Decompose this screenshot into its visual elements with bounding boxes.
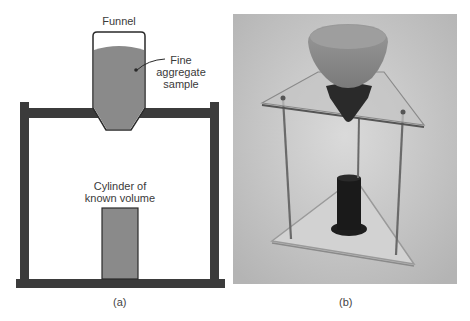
- panel-b-photo: (b): [232, 0, 470, 321]
- cylinder: [102, 208, 138, 279]
- apparatus-schematic: [0, 0, 232, 321]
- rod-middle: [358, 118, 359, 178]
- sample-label-line2: aggregate: [155, 66, 207, 78]
- apparatus-photo: [232, 0, 470, 321]
- rod-left-cap: [281, 96, 286, 101]
- panel-a-diagram: Funnel Fine aggregate sample Cylinder of…: [0, 0, 232, 321]
- caption-b: (b): [339, 296, 352, 308]
- caption-a: (a): [113, 296, 126, 308]
- fine-aggregate-sample: [94, 46, 144, 129]
- cylinder-label-line2: known volume: [82, 192, 158, 204]
- sample-label: Fine aggregate sample: [155, 54, 207, 90]
- rod-right-cap: [401, 110, 406, 115]
- sample-label-line3: sample: [155, 78, 207, 90]
- left-post: [20, 102, 29, 280]
- sample-label-line1: Fine: [155, 54, 207, 66]
- funnel-label: Funnel: [97, 15, 141, 27]
- cylinder-label-line1: Cylinder of: [82, 180, 158, 192]
- funnel-rim: [310, 25, 386, 49]
- leader-arrow-dot: [134, 68, 138, 72]
- cylinder-label: Cylinder of known volume: [82, 180, 158, 204]
- cylinder-body: [337, 178, 361, 230]
- base-plate: [16, 279, 225, 288]
- right-post: [210, 102, 219, 280]
